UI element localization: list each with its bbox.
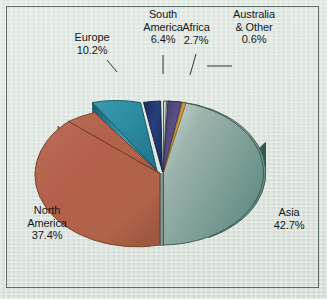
label-leader-lines <box>107 54 232 75</box>
label-south-america-line1: South <box>149 8 177 20</box>
label-australia-line2: & Other <box>235 21 272 33</box>
label-north-america-percent: 37.4% <box>12 229 82 242</box>
label-australia-other: Australia & Other 0.6% <box>221 8 287 46</box>
label-europe-percent: 10.2% <box>60 44 124 57</box>
label-australia-line1: Australia <box>233 8 275 20</box>
label-north-america: North America 37.4% <box>12 204 82 242</box>
label-north-america-line1: North <box>34 204 60 216</box>
label-asia-percent: 42.7% <box>262 219 316 232</box>
label-africa: Africa 2.7% <box>173 21 219 46</box>
label-europe-name: Europe <box>75 31 110 43</box>
africa-leader-line <box>190 54 196 75</box>
label-asia: Asia 42.7% <box>262 206 316 231</box>
pie-split-lines <box>160 173 163 246</box>
pie-chart-figure: Europe 10.2% South America 6.4% Africa 2… <box>0 0 327 299</box>
label-europe: Europe 10.2% <box>60 31 124 56</box>
label-australia-percent: 0.6% <box>221 33 287 46</box>
label-africa-name: Africa <box>182 21 210 33</box>
europe-leader-line <box>107 60 117 72</box>
chart-area: Europe 10.2% South America 6.4% Africa 2… <box>0 0 327 299</box>
label-north-america-line2: America <box>27 217 67 229</box>
label-africa-percent: 2.7% <box>173 34 219 47</box>
label-asia-name: Asia <box>279 206 300 218</box>
